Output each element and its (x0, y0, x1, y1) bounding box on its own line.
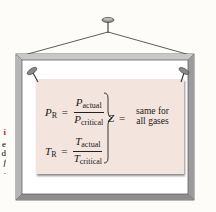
figure-scene: i e d f . PR = Pactual Pcritical TR = (0, 0, 216, 212)
compressibility-factor: Z = (108, 112, 125, 124)
lhs-subscript: R (51, 150, 56, 159)
z-statement-line-1: same for (136, 106, 169, 116)
caption-fragment-red: i (0, 128, 6, 137)
numerator: Pactual (74, 97, 104, 113)
z-symbol: Z (108, 112, 114, 124)
z-statement-line-2: all gases (136, 116, 169, 126)
equals-sign: = (119, 112, 125, 124)
z-statement: same for all gases (136, 106, 169, 126)
equals-sign: = (61, 145, 67, 157)
wall-nail-icon (102, 17, 114, 33)
lhs-subscript: R (52, 111, 57, 120)
denominator: Pcritical (74, 113, 104, 128)
fraction: Pactual Pcritical (74, 97, 104, 128)
hanging-wire (24, 32, 190, 55)
reduced-temperature-formula: TR = Tactual Tcritical (45, 136, 102, 167)
numerator: Tactual (73, 136, 102, 152)
caption-fragment: i e d f . (0, 128, 6, 176)
denominator: Tcritical (73, 152, 102, 167)
lhs-symbol: P (45, 106, 52, 118)
equals-sign: = (62, 106, 68, 118)
caption-fragment-line: . (0, 167, 6, 176)
fraction: Tactual Tcritical (73, 136, 102, 167)
reduced-pressure-formula: PR = Pactual Pcritical (45, 97, 104, 128)
